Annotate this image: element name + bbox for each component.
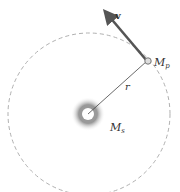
diagram-graphics <box>0 0 180 192</box>
planet-label-main: M <box>154 56 165 69</box>
star-label: Ms <box>110 122 125 135</box>
planet <box>145 58 151 64</box>
radius-line <box>88 61 147 114</box>
star-label-sub: s <box>121 127 125 135</box>
planet-label-sub: p <box>165 62 169 70</box>
planet-label: Mp <box>154 57 170 70</box>
velocity-label: v <box>115 11 121 21</box>
orbit-diagram: v Mp r Ms <box>0 0 180 192</box>
radius-label: r <box>125 82 130 92</box>
velocity-arrow <box>108 15 147 61</box>
star-label-main: M <box>110 121 121 134</box>
